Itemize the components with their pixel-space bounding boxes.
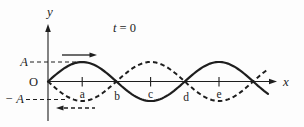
x-axis-label: x xyxy=(282,74,289,89)
wave-figure-canvas: y x t = 0 A O − A a b c d e xyxy=(0,0,304,127)
time-label: t = 0 xyxy=(113,21,136,35)
tick-label-a: a xyxy=(80,88,85,100)
y-axis-label: y xyxy=(45,4,53,19)
x-axis-arrowhead-icon xyxy=(269,79,277,85)
tick-label-c: c xyxy=(148,88,153,100)
amplitude-label: A xyxy=(19,55,28,69)
wave-superposition-figure: y x t = 0 A O − A a b c d e xyxy=(0,0,304,127)
tick-label-d: d xyxy=(183,91,189,103)
negative-amplitude-label: − A xyxy=(5,92,24,106)
tick-label-e: e xyxy=(216,88,221,100)
left-arrowhead-icon xyxy=(56,105,64,110)
y-axis-arrowhead-icon xyxy=(45,24,51,32)
dashed-wave-direction-arrow xyxy=(56,105,95,110)
solid-wave-direction-arrow xyxy=(62,52,97,57)
origin-label: O xyxy=(29,75,38,89)
right-arrowhead-icon xyxy=(90,52,98,57)
tick-label-b: b xyxy=(114,90,120,102)
